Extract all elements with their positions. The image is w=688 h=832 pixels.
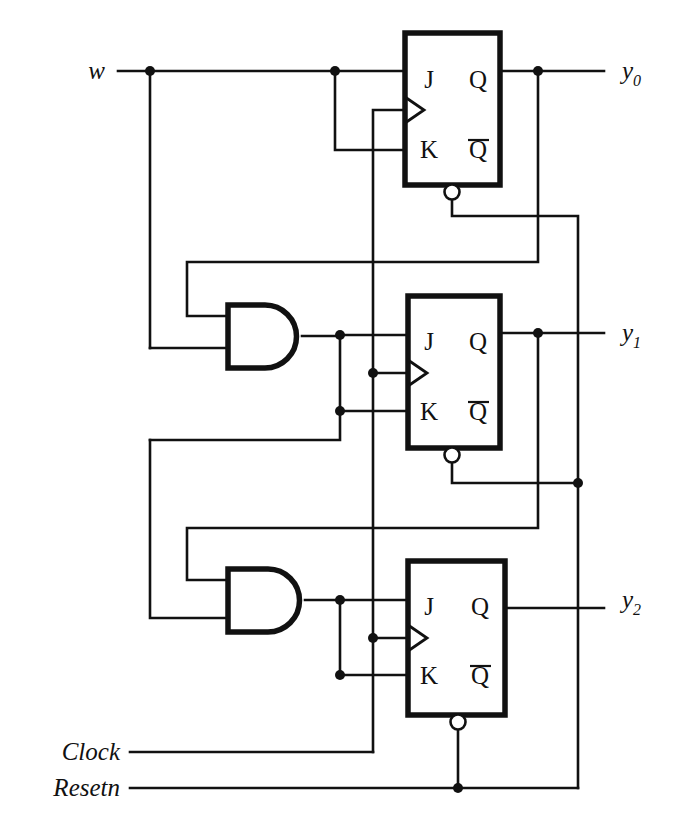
junction-dot xyxy=(335,670,345,680)
wires xyxy=(118,71,604,788)
pin-label-j: J xyxy=(424,328,434,355)
and-gates xyxy=(228,305,300,632)
pin-label-q: Q xyxy=(471,593,489,620)
junction-dots xyxy=(145,66,583,793)
pin-label-j: J xyxy=(424,593,434,620)
output-label-y0-base: y xyxy=(619,57,634,84)
circuit-svg: J K Q Q J K Q Q J K Q Q w Clock Resetn y… xyxy=(0,0,688,832)
pin-label-j: J xyxy=(424,66,434,93)
reset-bubble-icon-ff0 xyxy=(445,185,460,200)
reset-bubble-icon-ff2 xyxy=(451,715,466,730)
flipflop-ff1-box[interactable] xyxy=(408,296,500,448)
pin-label-q: Q xyxy=(469,66,487,93)
wire-w-branch-to-and1 xyxy=(150,71,228,348)
and-gate-2[interactable] xyxy=(228,569,300,632)
and-gate-1[interactable] xyxy=(228,305,297,368)
pin-label-k: K xyxy=(420,398,438,425)
wire-ff1-qbar-to-reset-bus xyxy=(452,462,578,483)
output-label-y1-sub: 1 xyxy=(633,334,641,351)
wire-clock-bus-vertical xyxy=(373,110,405,752)
junction-dot xyxy=(453,783,463,793)
input-label-clock: Clock xyxy=(62,738,121,765)
junction-dot xyxy=(145,66,155,76)
junction-dot xyxy=(533,66,543,76)
wire-and1-out-to-ff1-j xyxy=(302,335,408,336)
output-label-y0: y0 xyxy=(619,57,641,89)
signal-labels: w Clock Resetn y0 y1 y2 xyxy=(52,57,641,801)
junction-dot xyxy=(335,595,345,605)
reset-bubble-icon-ff1 xyxy=(445,448,460,463)
junction-dot xyxy=(368,633,378,643)
output-label-y2-sub: 2 xyxy=(633,601,641,618)
output-label-y1: y1 xyxy=(619,319,641,351)
junction-dot xyxy=(335,406,345,416)
pin-label-k: K xyxy=(420,136,438,163)
pin-label-q: Q xyxy=(469,328,487,355)
wire-and1-out-to-left-rail xyxy=(150,411,340,440)
input-label-resetn: Resetn xyxy=(52,774,120,801)
junction-dot xyxy=(573,478,583,488)
junction-dot xyxy=(335,330,345,340)
output-label-y2-base: y xyxy=(619,586,634,613)
pin-label-k: K xyxy=(420,662,438,689)
junction-dot xyxy=(330,66,340,76)
output-label-y2: y2 xyxy=(619,586,641,618)
output-label-y0-sub: 0 xyxy=(633,72,641,89)
flipflop-ff2-box[interactable] xyxy=(408,561,505,715)
junction-dot xyxy=(533,328,543,338)
circuit-diagram-page: J K Q Q J K Q Q J K Q Q w Clock Resetn y… xyxy=(0,0,688,832)
output-label-y1-base: y xyxy=(619,319,634,346)
input-label-w: w xyxy=(88,57,105,84)
junction-dot xyxy=(368,368,378,378)
